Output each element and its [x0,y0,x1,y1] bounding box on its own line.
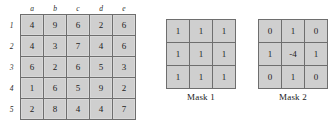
mask-cell: 1 [190,66,213,89]
mask-cell: 1 [282,66,305,89]
matrix-cell: 7 [113,99,136,120]
mask-1-figure: 1 1 1 1 1 1 1 1 1 Mask 1 [166,19,236,102]
matrix-cell: 6 [44,78,67,99]
matrix-cell: 1 [21,78,44,99]
matrix-cell: 9 [44,15,67,36]
mask-cell: 0 [259,20,282,43]
mask-cell: 1 [190,20,213,43]
matrix-cell: 3 [113,57,136,78]
mask-cell: 1 [167,20,190,43]
mask-cell: 0 [305,66,328,89]
matrix-cell: 5 [90,57,113,78]
mask-2-body: 0 1 0 1 -4 1 0 1 0 [259,20,328,89]
matrix-cell: 6 [21,57,44,78]
matrix-cell: 5 [67,78,90,99]
mask-cell: 0 [259,66,282,89]
mask-row: 0 1 0 [259,66,328,89]
mask-1-caption: Mask 1 [166,92,236,102]
mask-cell: 1 [167,43,190,66]
matrix-cell: 2 [21,99,44,120]
matrix-cell: 8 [44,99,67,120]
matrix-cell: 6 [67,57,90,78]
matrix-cell: 6 [67,15,90,36]
image-matrix-table: a b c d e 1 4 9 6 2 6 2 4 3 7 4 6 [3,2,136,120]
row-header-2: 2 [3,36,21,57]
row-header-4: 4 [3,78,21,99]
matrix-cell: 3 [44,36,67,57]
mask-cell: 1 [190,43,213,66]
matrix-cell: 4 [21,36,44,57]
mask-1-body: 1 1 1 1 1 1 1 1 1 [167,20,236,89]
mask-row: 0 1 0 [259,20,328,43]
image-matrix-header: a b c d e [3,2,136,15]
mask-row: 1 1 1 [167,43,236,66]
matrix-cell: 4 [21,15,44,36]
mask-2-figure: 0 1 0 1 -4 1 0 1 0 Mask 2 [258,19,328,102]
matrix-cell: 4 [90,36,113,57]
matrix-cell: 7 [67,36,90,57]
image-matrix-figure: a b c d e 1 4 9 6 2 6 2 4 3 7 4 6 [3,2,136,120]
mask-2-caption: Mask 2 [258,92,328,102]
mask-cell: 1 [213,66,236,89]
matrix-cell: 6 [113,15,136,36]
mask-cell: 1 [213,20,236,43]
matrix-cell: 4 [90,99,113,120]
mask-cell: 1 [282,20,305,43]
matrix-cell: 2 [44,57,67,78]
matrix-cell: 4 [67,99,90,120]
matrix-cell: 9 [90,78,113,99]
matrix-row: 2 4 3 7 4 6 [3,36,136,57]
row-header-1: 1 [3,15,21,36]
mask-cell: 1 [259,43,282,66]
column-header-b: b [44,2,67,15]
column-header-e: e [113,2,136,15]
mask-cell: 1 [213,43,236,66]
matrix-cell: 2 [90,15,113,36]
mask-cell: 1 [167,66,190,89]
mask-row: 1 1 1 [167,66,236,89]
mask-cell: -4 [282,43,305,66]
column-header-c: c [67,2,90,15]
matrix-row: 3 6 2 6 5 3 [3,57,136,78]
mask-2-table: 0 1 0 1 -4 1 0 1 0 [258,19,328,89]
column-header-d: d [90,2,113,15]
mask-1-table: 1 1 1 1 1 1 1 1 1 [166,19,236,89]
column-header-row: a b c d e [3,2,136,15]
matrix-cell: 2 [113,78,136,99]
row-header-3: 3 [3,57,21,78]
matrix-row: 4 1 6 5 9 2 [3,78,136,99]
mask-row: 1 -4 1 [259,43,328,66]
column-header-a: a [21,2,44,15]
image-matrix-body: 1 4 9 6 2 6 2 4 3 7 4 6 3 6 2 6 5 3 [3,15,136,120]
mask-row: 1 1 1 [167,20,236,43]
matrix-cell: 6 [113,36,136,57]
matrix-corner-spacer [3,2,21,15]
matrix-row: 1 4 9 6 2 6 [3,15,136,36]
row-header-5: 5 [3,99,21,120]
mask-cell: 1 [305,43,328,66]
matrix-row: 5 2 8 4 4 7 [3,99,136,120]
mask-cell: 0 [305,20,328,43]
